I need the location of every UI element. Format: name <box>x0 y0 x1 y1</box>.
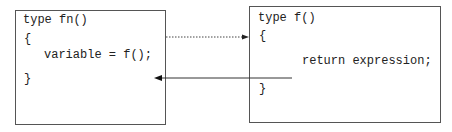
arrows-layer <box>0 0 452 132</box>
return-arrow <box>154 75 292 81</box>
call-arrow <box>166 35 249 40</box>
